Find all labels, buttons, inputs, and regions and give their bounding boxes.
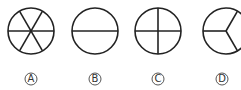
circle-option-c	[135, 8, 181, 54]
option-label-c[interactable]: C	[150, 71, 166, 87]
circle-option-a	[8, 8, 54, 54]
option-label-d[interactable]: D	[214, 71, 230, 87]
circle-option-b	[72, 8, 118, 54]
circle-option-d	[203, 8, 241, 54]
option-label-a[interactable]: A	[23, 71, 39, 87]
option-label-b[interactable]: B	[87, 71, 103, 87]
